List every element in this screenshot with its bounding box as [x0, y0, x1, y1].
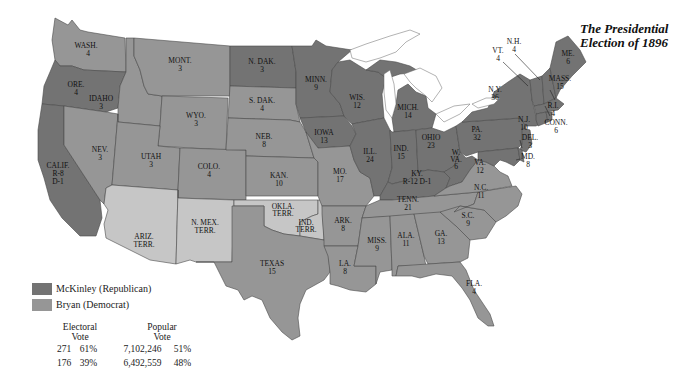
svg-text:4: 4 — [260, 104, 264, 113]
lake-superior — [350, 30, 420, 62]
state-colo — [178, 148, 246, 200]
svg-text:15: 15 — [556, 82, 564, 91]
svg-text:15: 15 — [268, 267, 276, 276]
legend-label-democrat: Bryan (Democrat) — [56, 299, 129, 310]
svg-text:12: 12 — [353, 101, 361, 110]
mckinley-popular: 7,102,246 — [123, 344, 161, 354]
republican-swatch — [32, 283, 52, 295]
mckinley-electoral: 271 — [57, 344, 71, 354]
svg-text:21: 21 — [404, 203, 412, 212]
popular-header-line-1: Popular — [137, 322, 187, 332]
bryan-electoral: 176 — [57, 358, 71, 368]
electoral-vote-header: Electoral Vote — [55, 322, 105, 342]
bryan-popular-pct: 48% — [174, 358, 191, 368]
svg-text:32: 32 — [473, 133, 481, 142]
bryan-electoral-pct: 39% — [80, 358, 97, 368]
popular-vote-header: Popular Vote — [137, 322, 187, 342]
svg-text:8: 8 — [343, 267, 347, 276]
mckinley-popular-pct: 51% — [174, 344, 191, 354]
svg-text:12: 12 — [476, 166, 484, 175]
svg-text:17: 17 — [336, 175, 344, 184]
state-ariz — [104, 185, 178, 264]
svg-text:6: 6 — [566, 57, 570, 66]
svg-text:6: 6 — [554, 126, 558, 135]
svg-text:3: 3 — [528, 141, 532, 150]
svg-text:36: 36 — [491, 93, 499, 102]
svg-text:13: 13 — [437, 237, 445, 246]
map-title: The Presidential Election of 1896 — [580, 22, 681, 50]
svg-text:4: 4 — [512, 45, 516, 54]
svg-text:10: 10 — [275, 179, 283, 188]
svg-text:8: 8 — [526, 160, 530, 169]
svg-text:9: 9 — [314, 83, 318, 92]
svg-text:10: 10 — [520, 123, 528, 132]
svg-text:TERR.: TERR. — [194, 226, 215, 235]
state-mont — [134, 38, 230, 96]
title-line-2: Election of 1896 — [580, 36, 681, 50]
svg-text:D-1: D-1 — [52, 177, 64, 186]
svg-text:23: 23 — [427, 141, 435, 150]
svg-text:11: 11 — [477, 191, 484, 200]
results-row-mckinley: 271 61% 7,102,246 51% — [57, 344, 191, 354]
svg-text:8: 8 — [341, 224, 345, 233]
results-row-bryan: 176 39% 6,492,559 48% — [57, 358, 191, 368]
svg-text:TERR.: TERR. — [133, 240, 154, 249]
state-wyo — [158, 96, 228, 150]
svg-text:3: 3 — [194, 119, 198, 128]
electoral-header-line-2: Vote — [55, 332, 105, 342]
mckinley-electoral-pct: 61% — [80, 344, 97, 354]
svg-text:3: 3 — [98, 153, 102, 162]
svg-text:24: 24 — [366, 155, 374, 164]
state-fla — [396, 262, 494, 326]
svg-text:11: 11 — [402, 239, 409, 248]
lake-michigan — [384, 70, 396, 118]
svg-text:13: 13 — [320, 136, 328, 145]
bryan-popular: 6,492,559 — [123, 358, 161, 368]
svg-text:3: 3 — [99, 102, 103, 111]
svg-text:3: 3 — [149, 160, 153, 169]
svg-text:15: 15 — [397, 152, 405, 161]
title-line-1: The Presidential — [580, 22, 681, 36]
democrat-swatch — [32, 299, 52, 311]
legend-item-democrat: Bryan (Democrat) — [32, 298, 151, 311]
popular-header-line-2: Vote — [137, 332, 187, 342]
svg-text:9: 9 — [466, 219, 470, 228]
svg-text:4: 4 — [496, 54, 500, 63]
svg-text:4: 4 — [86, 49, 90, 58]
svg-text:3: 3 — [260, 65, 264, 74]
svg-text:R-12 D-1: R-12 D-1 — [403, 177, 432, 186]
svg-text:9: 9 — [375, 244, 379, 253]
legend-item-republican: McKinley (Republican) — [32, 282, 151, 295]
svg-text:8: 8 — [262, 140, 266, 149]
svg-text:4: 4 — [551, 109, 555, 118]
svg-text:4: 4 — [472, 287, 476, 296]
svg-text:3: 3 — [178, 64, 182, 73]
legend: McKinley (Republican) Bryan (Democrat) — [32, 282, 151, 314]
svg-text:TERR.: TERR. — [295, 225, 316, 234]
svg-text:4: 4 — [207, 170, 211, 179]
legend-label-republican: McKinley (Republican) — [56, 283, 151, 294]
svg-text:TERR.: TERR. — [272, 209, 293, 218]
svg-text:6: 6 — [454, 162, 458, 171]
svg-text:4: 4 — [74, 88, 78, 97]
electoral-header-line-1: Electoral — [55, 322, 105, 332]
svg-text:14: 14 — [404, 111, 412, 120]
